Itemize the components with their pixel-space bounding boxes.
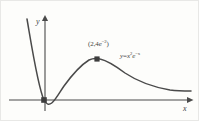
function-curve (27, 19, 191, 104)
equation-exp-power: −x (135, 51, 140, 56)
max-label-close-paren: ) (107, 40, 109, 48)
x-axis-label: x (183, 105, 187, 113)
x-axis-arrowhead (187, 97, 194, 103)
max-point-marker (94, 56, 99, 61)
curve-equation-label: y=x2e−x (120, 53, 140, 60)
axes-group (9, 15, 194, 111)
y-axis-label: y (36, 18, 40, 26)
graph-canvas (1, 1, 199, 121)
origin-point-marker (41, 97, 47, 103)
y-axis-arrowhead (42, 15, 48, 21)
max-point-label: (2,4e−2) (88, 41, 109, 48)
figure-container: y x (2,4e−2) y=x2e−x (0, 0, 199, 121)
